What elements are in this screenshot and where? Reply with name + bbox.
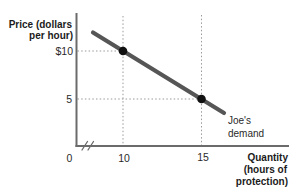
demand-chart-canvas: Price (dollars per hour) $10 5 0 10 15 J…	[0, 0, 296, 192]
curve-label-line2: demand	[228, 128, 264, 139]
x-tick-quantity-15: 15	[197, 151, 209, 163]
data-point-q15-p5	[197, 95, 206, 104]
curve-label-line1: Joe's	[228, 115, 251, 126]
demand-chart-figure: Price (dollars per hour) $10 5 0 10 15 J…	[0, 0, 296, 192]
x-axis-title-line2: (hours of	[244, 164, 288, 175]
x-axis-title-line3: protection)	[236, 176, 288, 187]
y-axis-title-line2: per hour)	[29, 30, 73, 41]
y-tick-price-10: $10	[55, 45, 73, 57]
data-point-q10-p10	[119, 47, 128, 56]
x-axis-title-line1: Quantity	[247, 152, 288, 163]
x-tick-quantity-10: 10	[118, 152, 130, 164]
y-axis-title-line1: Price (dollars	[9, 19, 73, 30]
y-tick-price-5: 5	[66, 93, 72, 105]
x-tick-quantity-0: 0	[67, 152, 73, 164]
